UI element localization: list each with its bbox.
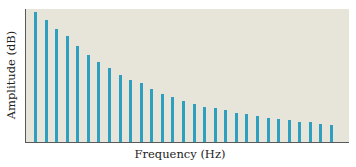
spectral-line-bar bbox=[203, 107, 206, 142]
spectral-line-bar bbox=[224, 110, 227, 142]
spectral-line-bar bbox=[193, 104, 196, 142]
spectral-line-bar bbox=[309, 122, 312, 142]
spectral-line-bar bbox=[319, 124, 322, 142]
spectral-line-bar bbox=[87, 55, 90, 142]
spectral-line-bar bbox=[277, 119, 280, 142]
spectral-line-bar bbox=[235, 113, 238, 142]
spectral-line-bar bbox=[161, 94, 164, 142]
x-axis-label: Frequency (Hz) bbox=[125, 147, 235, 161]
spectral-line-bar bbox=[182, 101, 185, 142]
spectral-line-bar bbox=[150, 89, 153, 142]
spectral-line-bar bbox=[108, 68, 111, 142]
spectral-line-bar bbox=[76, 46, 79, 142]
spectral-line-bar bbox=[288, 120, 291, 142]
spectral-line-bar bbox=[298, 122, 301, 142]
y-axis-label: Amplitude (dB) bbox=[4, 30, 18, 120]
spectral-line-bar bbox=[129, 80, 132, 142]
spectral-line-bar bbox=[214, 108, 217, 142]
spectral-line-bar bbox=[34, 12, 37, 142]
spectral-line-bar bbox=[119, 75, 122, 142]
x-axis-line bbox=[25, 142, 349, 143]
spectral-line-bar bbox=[330, 125, 333, 142]
spectral-line-bar bbox=[140, 83, 143, 142]
spectral-line-bar bbox=[267, 118, 270, 142]
spectral-line-bar bbox=[45, 20, 48, 142]
spectral-line-bar bbox=[97, 62, 100, 142]
spectral-line-bar bbox=[256, 116, 259, 142]
spectral-line-bar bbox=[66, 36, 69, 142]
spectral-line-bar bbox=[171, 97, 174, 142]
spectral-line-bar bbox=[55, 29, 58, 142]
y-axis-line bbox=[25, 9, 26, 143]
spectral-line-bar bbox=[245, 114, 248, 142]
